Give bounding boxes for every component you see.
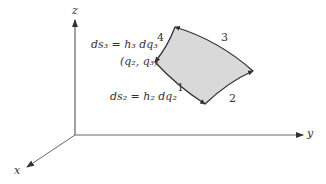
diagram-canvas: z y x ds₃ = h₃ dq₃ (q₂, q₃) ds₂ = h₂ dq₂… [0, 0, 326, 184]
edge-label-3: 3 [221, 32, 228, 43]
x-axis [27, 135, 75, 167]
z-axis-label: z [72, 5, 78, 16]
y-axis-label: y [307, 128, 313, 139]
ds2-annotation: ds₂ = h₂ dq₂ [110, 91, 177, 102]
corner-coordinate-label: (q₂, q₃) [120, 56, 158, 67]
edge-label-2: 2 [229, 93, 236, 104]
x-axis-label: x [14, 165, 20, 176]
edge-label-1: 1 [177, 82, 184, 93]
edge-label-4: 4 [157, 32, 164, 43]
ds3-annotation: ds₃ = h₃ dq₃ [91, 39, 158, 50]
